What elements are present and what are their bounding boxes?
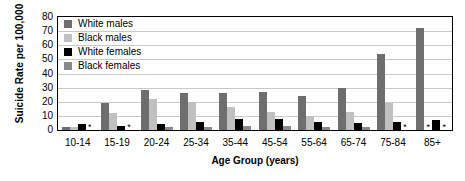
bar (283, 126, 291, 130)
legend-swatch-icon (64, 34, 72, 42)
bar (267, 112, 275, 130)
legend-label: White males (78, 19, 133, 29)
chart-legend: White malesBlack malesWhite femalesBlack… (64, 18, 141, 72)
legend-item: Black males (64, 32, 141, 44)
bar-slot (157, 17, 165, 130)
bar-slot (141, 17, 149, 130)
bar (243, 126, 251, 130)
bar-group (137, 17, 176, 130)
bar-slot (314, 17, 322, 130)
bar-slot (322, 17, 330, 130)
bar (117, 126, 125, 130)
legend-item: White males (64, 18, 141, 30)
x-tick-label: 25-34 (176, 137, 215, 148)
bar (109, 113, 117, 130)
bar (70, 127, 78, 130)
bar (298, 96, 306, 130)
y-tick-label: 60 (26, 40, 53, 50)
bar-slot (196, 17, 204, 130)
bar (204, 127, 212, 130)
bar-slot (283, 17, 291, 130)
y-axis-title: Suicide Rate per 100,000 (14, 0, 25, 129)
bar (416, 28, 424, 130)
bar (259, 92, 267, 130)
bar (432, 120, 440, 130)
legend-item: White females (64, 46, 141, 58)
bar-slot (227, 17, 235, 130)
bar-slot (204, 17, 212, 130)
bar (180, 93, 188, 130)
bar-group: ** (413, 17, 452, 130)
bar-group (255, 17, 294, 130)
legend-swatch-icon (64, 62, 72, 70)
missing-data-asterisk: * (443, 124, 447, 131)
x-axis-title: Age Group (years) (58, 155, 452, 166)
bar-group (176, 17, 215, 130)
bar-group (294, 17, 333, 130)
x-tick-label: 20-24 (137, 137, 176, 148)
bar (354, 123, 362, 130)
bar (377, 54, 385, 130)
y-tick-label: 0 (26, 125, 53, 135)
bar-slot (267, 17, 275, 130)
bar (306, 116, 314, 130)
y-tick-label: 70 (26, 26, 53, 36)
y-tick-label: 40 (26, 69, 53, 79)
y-tick-label: 20 (26, 97, 53, 107)
bar (322, 127, 330, 130)
bar (235, 119, 243, 130)
bar (338, 88, 346, 130)
bar-slot (149, 17, 157, 130)
bar-slot (377, 17, 385, 130)
bar (62, 127, 70, 130)
bar-slot (219, 17, 227, 130)
bar (149, 99, 157, 130)
legend-label: Black females (78, 61, 140, 71)
x-tick-label: 55-64 (294, 137, 333, 148)
missing-data-asterisk: * (403, 124, 407, 131)
x-tick-label: 75-84 (373, 137, 412, 148)
bar-slot (165, 17, 173, 130)
bar (196, 122, 204, 130)
x-tick-label: 35-44 (216, 137, 255, 148)
x-tick-label: 15-19 (97, 137, 136, 148)
bar-slot (259, 17, 267, 130)
bar (227, 107, 235, 130)
bar-slot (243, 17, 251, 130)
bar-slot (362, 17, 370, 130)
x-tick-label: 10-14 (58, 137, 97, 148)
bar-slot (188, 17, 196, 130)
legend-label: Black males (78, 33, 132, 43)
bar-slot (306, 17, 314, 130)
bar-slot (180, 17, 188, 130)
missing-data-asterisk: * (127, 124, 131, 131)
y-tick-label: 80 (26, 12, 53, 22)
legend-item: Black females (64, 60, 141, 72)
x-axis-tick-labels: 10-1415-1920-2425-3435-4445-5455-6465-74… (58, 137, 452, 148)
bar-slot (338, 17, 346, 130)
bar (157, 124, 165, 130)
bar (219, 93, 227, 130)
bar-group (334, 17, 373, 130)
bar (188, 102, 196, 130)
x-tick-label: 45-54 (255, 137, 294, 148)
bar-slot (298, 17, 306, 130)
bar-group: * (373, 17, 412, 130)
bar-group (216, 17, 255, 130)
bar-slot (346, 17, 354, 130)
bar-slot (385, 17, 393, 130)
bar (141, 90, 149, 130)
bar (101, 103, 109, 130)
legend-swatch-icon (64, 48, 72, 56)
bar-slot (235, 17, 243, 130)
bar (393, 122, 401, 130)
missing-data-asterisk: * (427, 124, 431, 131)
bar (78, 124, 86, 130)
bar-slot: * (401, 17, 409, 130)
y-tick-label: 50 (26, 54, 53, 64)
bar (346, 112, 354, 130)
missing-data-asterisk: * (88, 124, 92, 131)
bar (275, 119, 283, 130)
y-tick-label: 30 (26, 83, 53, 93)
x-tick-label: 85+ (413, 137, 452, 148)
